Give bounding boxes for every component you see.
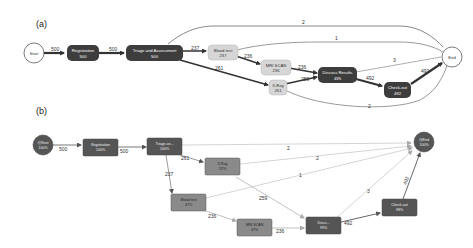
edge-b-xray-end	[240, 146, 411, 164]
node-start-a[interactable]: Start	[24, 43, 44, 63]
node-discuss-results-b-pct: 99%	[320, 226, 328, 230]
node-triage-a-name: Triage and Assessment	[133, 48, 177, 53]
node-mri-scan-b-pct: 47%	[251, 228, 259, 232]
node-start-b-pct: 100%	[38, 146, 48, 150]
node-triage-b[interactable]: Triage an... 100%	[147, 138, 182, 155]
node-check-out-b-name: Check-out	[391, 203, 407, 207]
node-check-out-a[interactable]: Check-out 492	[384, 82, 411, 98]
node-check-out-a-count: 492	[394, 91, 402, 96]
edge-label-b-triage-xray: 261	[181, 155, 190, 161]
node-triage-b-pct: 100%	[160, 147, 170, 151]
node-registration-a-count: 500	[80, 54, 88, 59]
node-end-b-pct: 100%	[419, 143, 429, 147]
node-triage-b-name: Triage an...	[155, 142, 173, 146]
node-registration-b-pct: 100%	[96, 148, 106, 152]
edge-label-b-blood-mri: 236	[208, 213, 217, 219]
edge-label-blood-end: 1	[335, 35, 338, 41]
node-mri-scan-a-count: 236	[273, 68, 281, 73]
process-map-figure: (a) 500 500 2 237 261 1 236 2	[0, 0, 473, 248]
panel-a-label: (a)	[36, 19, 47, 29]
node-registration-a[interactable]: Registration 500	[67, 45, 99, 61]
node-blood-test-a[interactable]: Blood test 237	[208, 45, 238, 60]
node-blood-test-b-pct: 47%	[185, 203, 193, 207]
edge-label-triage-blood: 237	[191, 45, 200, 51]
node-xray-a-name: X-Ray	[272, 83, 285, 88]
edge-label-xray-discuss: 259	[301, 76, 310, 82]
node-xray-b[interactable]: X-Ray 52%	[205, 158, 240, 175]
edge-label-b-discuss-checkout: 492	[344, 220, 353, 226]
panel-b-edges: 500 500 2 261 237 2 1 259 236 236 3 492	[53, 143, 420, 234]
node-registration-b[interactable]: Registration 100%	[83, 139, 118, 156]
edge-blood-end	[237, 42, 443, 52]
edge-label-b-xray-discuss: 259	[259, 195, 268, 201]
edge-b-triage-end	[182, 143, 411, 145]
edge-label-start-registration: 500	[51, 46, 60, 52]
edge-label-triage-xray: 261	[215, 65, 224, 71]
edge-label-b-start-registration: 500	[59, 146, 68, 152]
edge-b-xray-discuss	[236, 177, 304, 218]
edge-label-blood-mri: 236	[244, 53, 253, 59]
edge-label-b-triage-blood: 237	[165, 171, 174, 177]
node-xray-a[interactable]: X-Ray 261	[269, 80, 287, 95]
node-start-b-name: @Start	[37, 141, 48, 145]
node-xray-a-count: 261	[275, 88, 283, 93]
node-start-b[interactable]: @Start 100%	[33, 135, 53, 155]
node-xray-b-name: X-Ray	[218, 162, 228, 166]
node-discuss-results-a-name: Discuss Results	[323, 70, 353, 75]
edge-label-b-discuss-end: 3	[367, 188, 370, 194]
node-registration-a-name: Registration	[72, 48, 95, 53]
node-blood-test-b-name: Blood test	[181, 198, 197, 202]
edge-label-triage-end: 2	[302, 19, 305, 25]
edge-label-discuss-checkout: 492	[366, 75, 375, 81]
node-triage-a[interactable]: Triage and Assessment 500	[126, 45, 183, 61]
edge-triage-end	[168, 26, 443, 47]
panel-b: (b) 500 500 2 261 237 2 1 259 236 236	[33, 106, 434, 236]
node-end-b-name: @End	[419, 138, 429, 142]
edge-label-b-triage-end: 2	[287, 145, 290, 151]
node-mri-scan-b-name: MRI SCAN	[246, 223, 264, 227]
edge-label-b-registration-triage: 500	[120, 148, 129, 154]
node-mri-scan-b[interactable]: MRI SCAN 47%	[237, 219, 272, 236]
edge-label-registration-triage: 500	[109, 46, 118, 52]
edge-label-checkout-end: 492	[421, 68, 430, 74]
node-discuss-results-b[interactable]: Discu... 99%	[306, 217, 341, 234]
edge-label-b-mri-discuss: 236	[276, 228, 285, 234]
edge-b-checkout-end	[403, 153, 420, 199]
panel-b-label: (b)	[36, 106, 47, 116]
node-registration-b-name: Registration	[91, 143, 110, 147]
edge-label-mri-discuss: 236	[298, 64, 307, 70]
node-xray-b-pct: 52%	[219, 167, 227, 171]
edge-label-discuss-end: 3	[393, 57, 396, 63]
edge-triage-xray	[180, 60, 268, 85]
node-end-a[interactable]: End	[442, 47, 462, 67]
node-blood-test-a-name: Blood test	[214, 48, 233, 53]
node-end-a-label: End	[448, 55, 456, 60]
node-check-out-b[interactable]: Check-out 98%	[382, 199, 417, 216]
node-blood-test-a-count: 237	[220, 53, 228, 58]
node-end-b[interactable]: @End 100%	[414, 132, 434, 152]
node-discuss-results-a-count: 495	[334, 76, 342, 81]
node-check-out-b-pct: 98%	[396, 208, 404, 212]
node-discuss-results-b-name: Discu...	[318, 221, 330, 225]
edge-label-b-xray-end: 2	[316, 155, 319, 161]
edge-label-xray-end: 2	[368, 103, 371, 109]
node-discuss-results-a[interactable]: Discuss Results 495	[318, 67, 357, 83]
node-mri-scan-a-name: MRI SCAN	[266, 63, 286, 68]
node-mri-scan-a[interactable]: MRI SCAN 236	[261, 60, 291, 75]
node-blood-test-b[interactable]: Blood test 47%	[171, 194, 206, 211]
node-triage-a-count: 500	[151, 54, 159, 59]
node-check-out-a-name: Check-out	[388, 85, 408, 90]
node-start-a-label: Start	[30, 51, 40, 56]
edge-label-b-blood-end: 1	[299, 172, 302, 178]
panel-a: (a) 500 500 2 237 261 1 236 2	[24, 19, 462, 109]
